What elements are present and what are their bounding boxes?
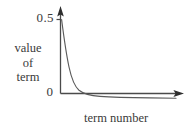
y-axis-title-line-2: of: [2, 56, 54, 71]
data-curve-value-of-term: [62, 20, 176, 99]
y-axis-tick-label-upper: 0.5: [20, 11, 54, 24]
graph-figure: 0.5 0 value of term term number: [0, 0, 192, 132]
y-axis-tick-label-zero: 0: [30, 85, 53, 98]
y-axis-title: value of term: [2, 41, 54, 85]
y-axis-title-line-3: term: [2, 70, 54, 85]
y-axis-title-line-1: value: [2, 41, 54, 56]
x-axis-title: term number: [84, 112, 188, 125]
